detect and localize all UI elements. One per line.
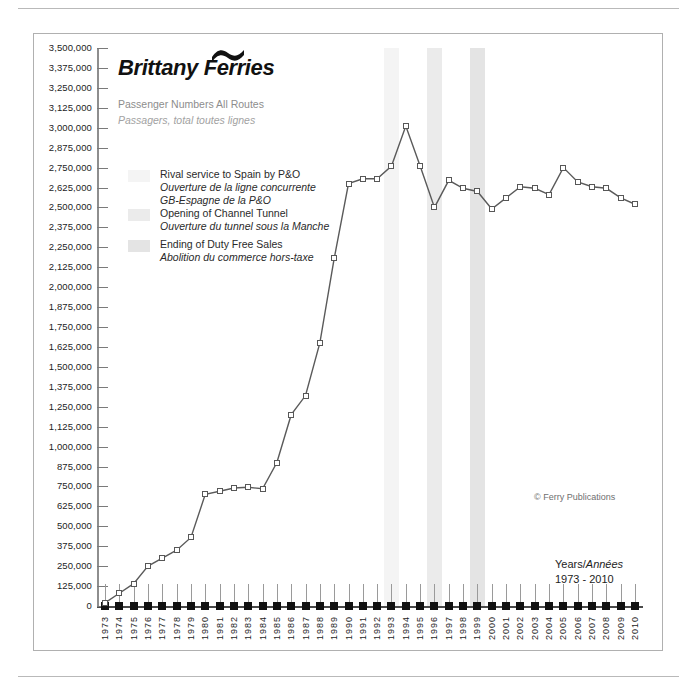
y-axis-tick-label: 1,625,000 xyxy=(34,341,92,352)
x-axis-tick-label: 2004 xyxy=(544,616,554,640)
data-point xyxy=(632,201,638,207)
y-axis-tick xyxy=(97,148,108,149)
x-axis-marker xyxy=(445,602,453,610)
data-point xyxy=(145,563,151,569)
years-label-fr: Années xyxy=(586,558,623,570)
data-point xyxy=(231,485,237,491)
x-axis-tick-label: 2003 xyxy=(530,616,540,640)
y-axis-tick xyxy=(97,506,108,507)
data-point xyxy=(517,184,523,190)
data-point xyxy=(575,179,581,185)
x-axis-marker xyxy=(631,602,639,610)
data-point xyxy=(317,340,323,346)
x-axis-marker xyxy=(617,602,625,610)
data-point xyxy=(131,581,137,587)
wave-icon xyxy=(211,46,245,62)
x-axis-marker xyxy=(502,602,510,610)
data-point xyxy=(288,412,294,418)
y-axis-tick-label: 1,000,000 xyxy=(34,441,92,452)
y-axis-tick xyxy=(97,287,108,288)
data-point xyxy=(532,185,538,191)
x-axis-tick-label: 1990 xyxy=(344,616,354,640)
data-point xyxy=(331,255,337,261)
y-axis-tick xyxy=(97,367,108,368)
x-axis-tick-label: 1997 xyxy=(444,616,454,640)
x-axis-tick-label: 1998 xyxy=(458,616,468,640)
y-axis-tick-label: 3,125,000 xyxy=(34,102,92,113)
x-axis-marker xyxy=(216,602,224,610)
x-axis-title: Years/Années xyxy=(555,558,623,570)
data-point xyxy=(346,181,352,187)
x-axis-marker xyxy=(244,602,252,610)
x-axis-tick-label: 1999 xyxy=(472,616,482,640)
y-axis-tick-label: 3,000,000 xyxy=(34,122,92,133)
y-axis-tick-label: 1,875,000 xyxy=(34,301,92,312)
y-axis-tick-label: 3,500,000 xyxy=(34,42,92,53)
legend-label-fr-1: Ouverture de la ligne concurrente xyxy=(160,181,316,193)
y-axis-tick xyxy=(97,546,108,547)
x-axis-tick-label: 1977 xyxy=(157,616,167,640)
x-axis-tick-label: 1978 xyxy=(172,616,182,640)
x-axis-tick-label: 1979 xyxy=(186,616,196,640)
event-band-1999 xyxy=(470,48,486,608)
x-axis-marker xyxy=(345,602,353,610)
data-point xyxy=(174,547,180,553)
x-axis-marker xyxy=(302,602,310,610)
y-axis-tick-label: 2,625,000 xyxy=(34,182,92,193)
y-axis-tick xyxy=(97,267,108,268)
x-axis-marker xyxy=(273,602,281,610)
data-point xyxy=(503,195,509,201)
years-label-en: Years/ xyxy=(555,558,586,570)
y-axis-tick-label: 0 xyxy=(34,600,92,611)
x-axis-marker xyxy=(330,602,338,610)
y-axis-tick xyxy=(97,88,108,89)
x-axis-tick-label: 1973 xyxy=(100,616,110,640)
x-axis-tick-label: 1982 xyxy=(229,616,239,640)
x-axis-marker xyxy=(144,602,152,610)
years-range: 1973 - 2010 xyxy=(555,573,614,585)
y-axis-tick xyxy=(97,207,108,208)
x-axis-tick-label: 1985 xyxy=(272,616,282,640)
x-axis-tick-label: 1995 xyxy=(415,616,425,640)
y-axis-tick-label: 1,375,000 xyxy=(34,381,92,392)
y-axis-tick-label: 2,500,000 xyxy=(34,201,92,212)
x-axis-tick-label: 1992 xyxy=(372,616,382,640)
legend-swatch-1 xyxy=(128,170,150,182)
top-divider xyxy=(18,8,679,9)
y-axis-tick xyxy=(97,247,108,248)
x-axis-marker xyxy=(373,602,381,610)
y-axis-tick-label: 750,000 xyxy=(34,480,92,491)
y-axis-tick-label: 2,000,000 xyxy=(34,281,92,292)
y-axis-tick xyxy=(97,227,108,228)
y-axis-tick-label: 1,750,000 xyxy=(34,321,92,332)
x-axis-tick-label: 2010 xyxy=(630,616,640,640)
y-axis-line xyxy=(97,48,99,608)
event-band-1996 xyxy=(427,48,443,608)
y-axis-tick-label: 2,250,000 xyxy=(34,241,92,252)
event-band-1993 xyxy=(384,48,400,608)
y-axis-tick xyxy=(97,407,108,408)
brand-name-part1: Brittany xyxy=(118,55,198,80)
x-axis-tick-label: 1994 xyxy=(401,616,411,640)
y-axis-tick xyxy=(97,307,108,308)
x-axis-marker xyxy=(416,602,424,610)
x-axis-marker xyxy=(588,602,596,610)
y-axis-tick xyxy=(97,526,108,527)
data-point xyxy=(417,163,423,169)
legend-swatch-3 xyxy=(128,240,150,252)
data-point xyxy=(446,177,452,183)
y-axis-tick xyxy=(97,586,108,587)
x-axis-tick-label: 1983 xyxy=(243,616,253,640)
x-axis-tick-label: 2005 xyxy=(558,616,568,640)
y-axis-tick-label: 1,500,000 xyxy=(34,361,92,372)
x-axis-marker xyxy=(187,602,195,610)
data-point xyxy=(374,176,380,182)
x-axis-marker xyxy=(158,602,166,610)
data-point xyxy=(603,185,609,191)
x-axis-tick-label: 1988 xyxy=(315,616,325,640)
y-axis-tick xyxy=(97,447,108,448)
x-axis-marker xyxy=(402,602,410,610)
data-point xyxy=(217,488,223,494)
data-point xyxy=(245,484,251,490)
x-axis-marker xyxy=(545,602,553,610)
